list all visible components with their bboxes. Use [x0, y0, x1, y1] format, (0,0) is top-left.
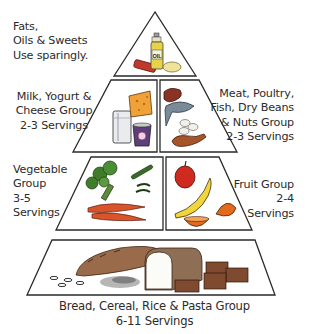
label-line: 2-3 Servings	[211, 130, 294, 144]
label-line: Fruit Group	[234, 178, 294, 192]
label-line: 6-11 Servings	[0, 314, 309, 329]
label-line: Milk, Yogurt &	[11, 90, 97, 104]
label-line: Use sparingly.	[13, 49, 88, 63]
label-line: 3-5	[13, 192, 67, 206]
label-vegetable: Vegetable Group 3-5 Servings	[13, 163, 67, 221]
label-line: Fats,	[13, 20, 88, 34]
label-line: Oils & Sweets	[13, 34, 88, 48]
svg-text:OIL: OIL	[152, 53, 162, 59]
milk-glass-icon	[113, 111, 131, 143]
label-grains: Bread, Cereal, Rice & Pasta Group 6-11 S…	[0, 299, 309, 329]
butter-icon	[163, 62, 181, 72]
label-dairy: Milk, Yogurt & Cheese Group 2-3 Servings	[11, 90, 97, 133]
rice-icon	[100, 276, 140, 288]
label-line: Bread, Cereal, Rice & Pasta Group	[0, 299, 309, 314]
label-line: & Nuts Group	[211, 116, 294, 130]
tier-fats-oils-sweets: OIL	[114, 12, 196, 76]
label-fruit: Fruit Group 2-4 Servings	[234, 178, 294, 221]
label-line: Cheese Group	[11, 104, 97, 118]
label-protein: Meat, Poultry, Fish, Dry Beans & Nuts Gr…	[211, 87, 294, 145]
oil-bottle-icon: OIL	[151, 33, 163, 69]
label-line: Group	[13, 177, 67, 191]
yogurt-cup-icon	[133, 123, 151, 146]
tier-grains	[27, 240, 275, 295]
label-fats-oils-sweets: Fats, Oils & Sweets Use sparingly.	[13, 20, 88, 63]
tier-vegetable-fruit	[56, 157, 252, 230]
label-line: Servings	[234, 207, 294, 221]
label-line: Meat, Poultry,	[211, 87, 294, 101]
label-line: 2-3 Servings	[11, 119, 97, 133]
label-line: Servings	[13, 206, 67, 220]
label-line: Fish, Dry Beans	[211, 101, 294, 115]
label-line: Vegetable	[13, 163, 67, 177]
cheese-wedge-icon	[129, 91, 152, 117]
label-line: 2-4	[234, 192, 294, 206]
